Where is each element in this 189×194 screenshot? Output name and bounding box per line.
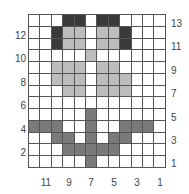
grid-cell — [109, 62, 120, 74]
grid-cell — [154, 133, 165, 145]
grid-cell — [75, 74, 86, 86]
grid-cell — [143, 86, 154, 98]
grid-cell — [63, 121, 74, 133]
grid-cell — [109, 86, 120, 98]
grid-cell — [75, 62, 86, 74]
grid-cell — [120, 97, 131, 109]
grid-cell — [40, 133, 51, 145]
grid-cell — [29, 133, 40, 145]
column-label: 3 — [131, 178, 143, 188]
grid-cell — [86, 27, 97, 39]
grid-cell — [52, 15, 63, 27]
grid-cell — [86, 86, 97, 98]
grid-cell — [75, 133, 86, 145]
grid-cell — [52, 62, 63, 74]
grid-cell — [120, 39, 131, 51]
grid-cell — [120, 133, 131, 145]
grid-cell — [52, 121, 63, 133]
grid-cell — [40, 74, 51, 86]
grid-cell — [132, 156, 143, 168]
grid-cell — [132, 50, 143, 62]
grid-cell — [52, 144, 63, 156]
grid-cell — [86, 109, 97, 121]
row-label: 11 — [171, 42, 181, 52]
grid-cell — [154, 39, 165, 51]
grid-cell — [132, 62, 143, 74]
grid-cell — [63, 133, 74, 145]
grid-cell — [63, 144, 74, 156]
grid-cell — [97, 27, 108, 39]
grid-cell — [97, 15, 108, 27]
grid-cell — [109, 156, 120, 168]
grid-cell — [63, 74, 74, 86]
grid-cell — [154, 86, 165, 98]
grid-cell — [40, 62, 51, 74]
grid-cell — [29, 109, 40, 121]
grid-cell — [52, 97, 63, 109]
grid-cell — [29, 39, 40, 51]
grid-cell — [97, 133, 108, 145]
grid-cell — [120, 74, 131, 86]
grid-cell — [75, 39, 86, 51]
grid-cell — [63, 39, 74, 51]
grid-cell — [63, 109, 74, 121]
grid-cell — [40, 86, 51, 98]
grid-cell — [132, 109, 143, 121]
grid-cell — [154, 109, 165, 121]
grid-cell — [63, 97, 74, 109]
grid-cell — [154, 27, 165, 39]
grid-cell — [52, 27, 63, 39]
grid-cell — [154, 15, 165, 27]
grid-cell — [109, 144, 120, 156]
grid-cell — [132, 97, 143, 109]
grid-cell — [109, 121, 120, 133]
grid-cell — [143, 74, 154, 86]
grid-cell — [97, 97, 108, 109]
grid-cell — [132, 15, 143, 27]
grid-cell — [143, 156, 154, 168]
grid-cell — [40, 109, 51, 121]
grid-cell — [29, 156, 40, 168]
pattern-grid — [28, 14, 166, 168]
row-label: 13 — [171, 19, 182, 29]
grid-cell — [63, 27, 74, 39]
grid-cell — [52, 86, 63, 98]
grid-cell — [120, 121, 131, 133]
grid-cell — [52, 133, 63, 145]
grid-cell — [143, 39, 154, 51]
grid-cell — [120, 109, 131, 121]
grid-cell — [75, 86, 86, 98]
grid-cell — [97, 156, 108, 168]
grid-cell — [154, 50, 165, 62]
grid-cell — [52, 156, 63, 168]
grid-cell — [75, 156, 86, 168]
grid-cell — [86, 133, 97, 145]
grid-cell — [143, 121, 154, 133]
column-label: 11 — [40, 178, 52, 188]
grid-cell — [97, 62, 108, 74]
grid-cell — [97, 144, 108, 156]
grid-cell — [120, 27, 131, 39]
row-label: 4 — [2, 125, 26, 135]
grid-cell — [97, 121, 108, 133]
row-label: 3 — [171, 136, 177, 146]
row-label: 6 — [2, 101, 26, 111]
row-label: 8 — [2, 78, 26, 88]
grid-cell — [52, 50, 63, 62]
column-label: 9 — [63, 178, 75, 188]
grid-cell — [29, 50, 40, 62]
grid-cell — [120, 156, 131, 168]
grid-cell — [40, 156, 51, 168]
grid-cell — [75, 50, 86, 62]
grid-cell — [154, 97, 165, 109]
row-label: 10 — [2, 54, 26, 64]
grid-cell — [86, 156, 97, 168]
grid-cell — [86, 50, 97, 62]
row-label: 7 — [171, 89, 177, 99]
grid-cell — [109, 133, 120, 145]
grid-cell — [143, 15, 154, 27]
grid-cell — [109, 74, 120, 86]
grid-cell — [97, 74, 108, 86]
grid-cell — [86, 144, 97, 156]
grid-cell — [29, 121, 40, 133]
